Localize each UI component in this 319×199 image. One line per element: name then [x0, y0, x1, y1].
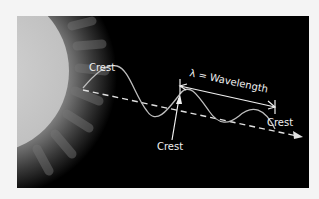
crest-pointer: [172, 94, 182, 140]
crest-label-right: Crest: [267, 117, 293, 128]
wave-diagram: Crest Crest Crest λ = Wavelength: [17, 16, 309, 188]
crest-label-middle: Crest: [157, 141, 183, 152]
diagram-frame: Crest Crest Crest λ = Wavelength: [17, 16, 309, 188]
dashed-direction-arrow: [83, 90, 303, 139]
crest-label-left: Crest: [89, 62, 115, 73]
